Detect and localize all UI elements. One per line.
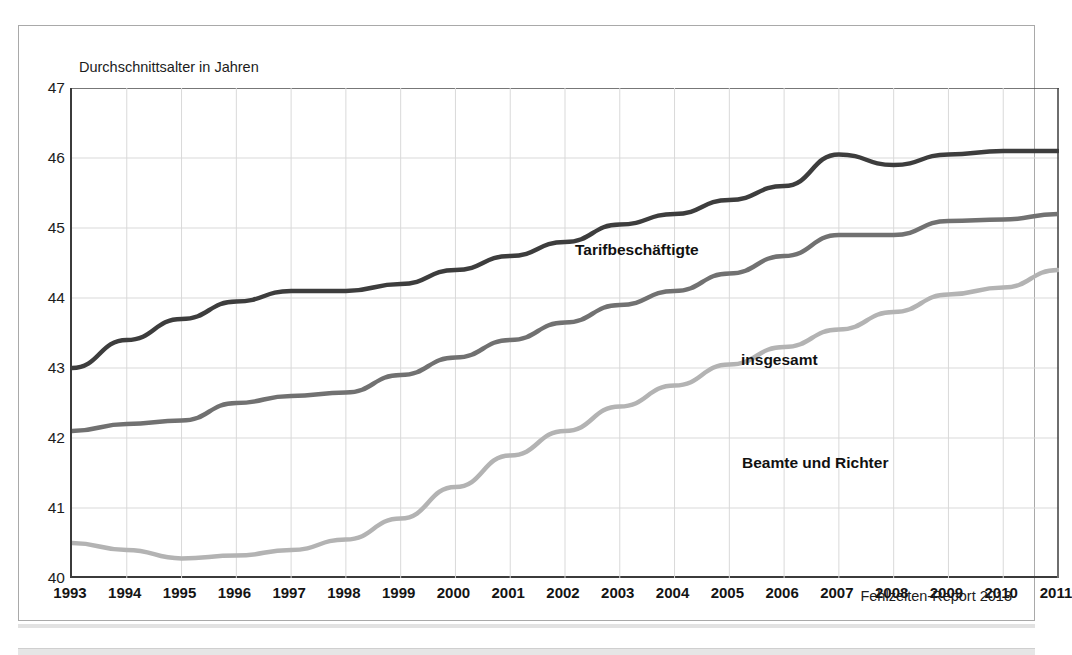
x-tick-2002: 2002 — [546, 584, 579, 601]
figure-frame: Durchschnittsalter in Jahren 40414243444… — [18, 25, 1035, 621]
x-tick-2007: 2007 — [820, 584, 853, 601]
y-tick-45: 45 — [31, 219, 65, 237]
x-tick-2004: 2004 — [656, 584, 689, 601]
series-label-beamte-und-richter: Beamte und Richter — [742, 454, 888, 472]
x-tick-1994: 1994 — [108, 584, 141, 601]
x-tick-2006: 2006 — [765, 584, 798, 601]
x-tick-1997: 1997 — [272, 584, 305, 601]
series-label-tarifbeschaeftigte: Tarifbeschäftigte — [575, 241, 699, 259]
y-tick-47: 47 — [31, 79, 65, 97]
series-label-insgesamt: insgesamt — [741, 351, 818, 369]
page-bottom-strip — [18, 648, 1035, 655]
x-tick-2003: 2003 — [601, 584, 634, 601]
y-tick-43: 43 — [31, 359, 65, 377]
x-tick-1998: 1998 — [327, 584, 360, 601]
footer-credit: Fehlzeiten-Report 2013 — [860, 588, 1012, 604]
y-tick-41: 41 — [31, 499, 65, 517]
plot-area: Tarifbeschäftigte insgesamt Beamte und R… — [70, 88, 1057, 578]
y-tick-44: 44 — [31, 289, 65, 307]
x-tick-1999: 1999 — [382, 584, 415, 601]
x-tick-1996: 1996 — [218, 584, 251, 601]
y-axis-title: Durchschnittsalter in Jahren — [79, 59, 259, 75]
x-tick-1995: 1995 — [163, 584, 196, 601]
x-tick-2001: 2001 — [492, 584, 525, 601]
y-axis-tick-labels: 4041424344454647 — [27, 88, 65, 578]
chart-svg — [72, 88, 1059, 578]
x-tick-2005: 2005 — [711, 584, 744, 601]
x-tick-2011: 2011 — [1040, 584, 1072, 601]
x-tick-1993: 1993 — [53, 584, 86, 601]
x-tick-2000: 2000 — [437, 584, 470, 601]
y-tick-42: 42 — [31, 429, 65, 447]
y-tick-46: 46 — [31, 149, 65, 167]
